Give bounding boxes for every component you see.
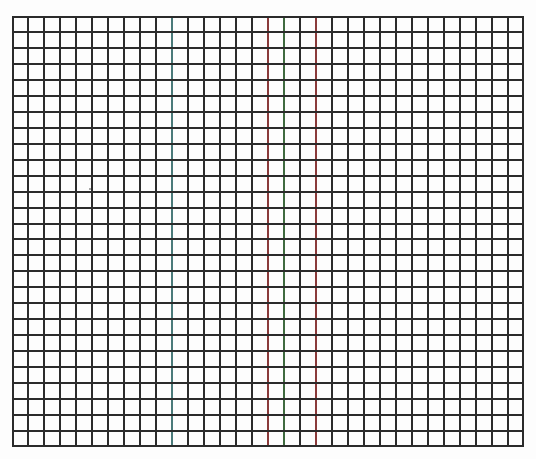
graph-paper-sheet: [0, 0, 536, 459]
grid-horizontal-line: [12, 430, 524, 432]
grid-horizontal-line: [12, 350, 524, 352]
dust-speck: [89, 188, 91, 190]
grid-horizontal-line: [12, 143, 524, 145]
square-grid: [12, 16, 524, 447]
grid-horizontal-line: [12, 398, 524, 400]
grid-horizontal-line: [12, 111, 524, 113]
grid-horizontal-line: [12, 159, 524, 161]
grid-horizontal-line: [12, 47, 524, 49]
grid-horizontal-line: [12, 318, 524, 320]
grid-horizontal-line: [12, 175, 524, 177]
grid-horizontal-line: [12, 16, 524, 18]
grid-horizontal-line: [12, 270, 524, 272]
grid-horizontal-line: [12, 207, 524, 209]
grid-horizontal-line: [12, 254, 524, 256]
grid-horizontal-line: [12, 127, 524, 129]
grid-horizontal-line: [12, 414, 524, 416]
grid-horizontal-line: [12, 63, 524, 65]
grid-horizontal-line: [12, 95, 524, 97]
grid-horizontal-line: [12, 382, 524, 384]
grid-horizontal-line: [12, 286, 524, 288]
grid-horizontal-line: [12, 31, 524, 33]
grid-horizontal-line: [12, 334, 524, 336]
grid-horizontal-line: [12, 366, 524, 368]
grid-horizontal-line: [12, 191, 524, 193]
grid-horizontal-line: [12, 302, 524, 304]
grid-horizontal-line: [12, 79, 524, 81]
grid-horizontal-line: [12, 223, 524, 225]
grid-horizontal-line: [12, 238, 524, 240]
grid-horizontal-line: [12, 445, 524, 447]
